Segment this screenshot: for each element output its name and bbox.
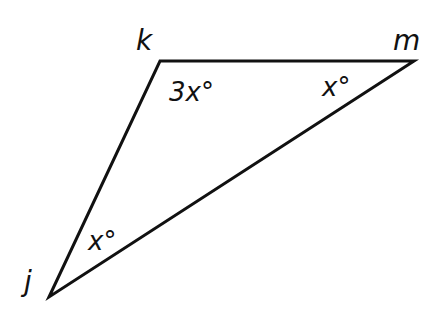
triangle-diagram: k m j 3x° x° x° [0, 0, 437, 312]
triangle-jkm [49, 61, 414, 297]
vertex-label-k: k [136, 24, 154, 57]
angle-label-j: x° [87, 226, 116, 256]
vertex-label-m: m [393, 24, 420, 57]
angle-label-k: 3x° [169, 77, 214, 107]
vertex-label-j: j [20, 265, 32, 298]
angle-label-m: x° [321, 72, 350, 102]
